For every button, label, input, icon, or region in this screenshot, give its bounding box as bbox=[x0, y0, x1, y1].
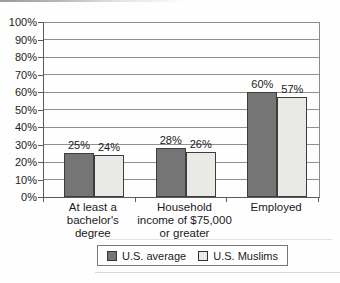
legend: U.S. averageU.S. Muslims bbox=[97, 245, 288, 266]
y-tick-label-80: 80% bbox=[0, 51, 37, 63]
bar-u-s-muslims-0 bbox=[94, 155, 124, 197]
y-tick-label-40: 40% bbox=[0, 121, 37, 133]
value-label-1-1: 26% bbox=[176, 138, 226, 150]
category-label-2-line-0: Employed bbox=[214, 201, 338, 214]
y-tick-label-50: 50% bbox=[0, 104, 37, 116]
y-tick-label-20: 20% bbox=[0, 156, 37, 168]
legend-swatch-u-s-average bbox=[107, 251, 117, 261]
gridline-90 bbox=[44, 39, 319, 40]
scanned-page: 0%10%20%30%40%50%60%70%80%90%100% 25%28%… bbox=[0, 0, 340, 283]
bar-u-s-average-1 bbox=[156, 148, 186, 197]
bar-u-s-average-0 bbox=[64, 153, 94, 197]
gridline-70 bbox=[44, 74, 319, 75]
value-label-1-2: 57% bbox=[267, 83, 317, 95]
legend-swatch-u-s-muslims bbox=[198, 251, 208, 261]
y-tick-label-30: 30% bbox=[0, 139, 37, 151]
y-tick-label-90: 90% bbox=[0, 34, 37, 46]
gridline-100 bbox=[44, 22, 319, 23]
gridline-80 bbox=[44, 57, 319, 58]
bar-chart: 0%10%20%30%40%50%60%70%80%90%100% 25%28%… bbox=[0, 0, 340, 283]
bar-u-s-average-2 bbox=[247, 92, 277, 197]
legend-label-1: U.S. Muslims bbox=[213, 250, 278, 262]
bar-u-s-muslims-1 bbox=[186, 152, 216, 198]
scan-line-artifact-bottom bbox=[95, 272, 340, 273]
plot-area: 25%28%60%24%26%57% bbox=[43, 22, 320, 198]
category-label-1-line-1: income of $75,000 bbox=[123, 214, 247, 227]
y-tick-label-70: 70% bbox=[0, 69, 37, 81]
value-label-1-0: 24% bbox=[84, 141, 134, 153]
y-tick-label-100: 100% bbox=[0, 16, 37, 28]
category-label-2: Employed bbox=[214, 201, 338, 214]
bar-u-s-muslims-2 bbox=[277, 97, 307, 197]
y-tick-label-60: 60% bbox=[0, 86, 37, 98]
scan-line-artifact-mid bbox=[106, 239, 332, 240]
legend-entry-0: U.S. average bbox=[107, 250, 186, 262]
legend-label-0: U.S. average bbox=[122, 250, 186, 262]
y-tick-label-10: 10% bbox=[0, 174, 37, 186]
legend-entry-1: U.S. Muslims bbox=[198, 250, 278, 262]
